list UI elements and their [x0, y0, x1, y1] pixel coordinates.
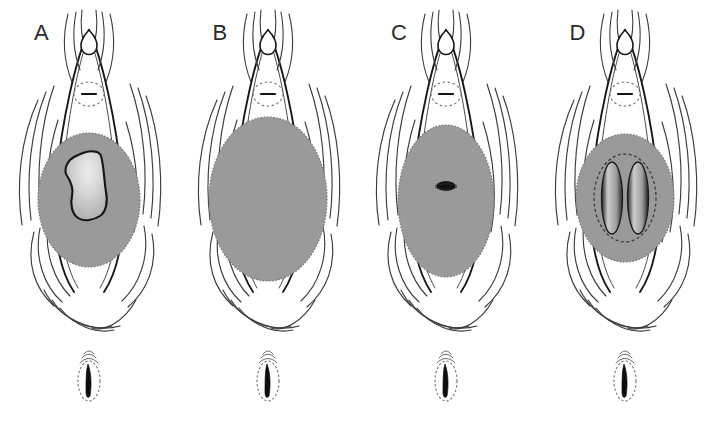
- urethral-meatus: [431, 82, 461, 106]
- inset-c: [435, 351, 457, 401]
- panel-c-label: C: [391, 22, 407, 44]
- panel-a-label: A: [34, 22, 49, 44]
- panel-d: D: [536, 0, 714, 424]
- panel-c: C: [357, 0, 536, 424]
- panel-a: A: [0, 0, 179, 424]
- apex-glans: [259, 30, 275, 55]
- panel-b: B: [179, 0, 358, 424]
- membrane-ellipse: [576, 134, 674, 262]
- apex-glans: [616, 30, 632, 55]
- central-opening-irregular: [65, 151, 106, 220]
- urethral-meatus: [74, 82, 104, 106]
- membrane-ellipse-large: [209, 117, 327, 281]
- lobe-left: [601, 162, 622, 234]
- panel-a-drawing: [0, 0, 179, 424]
- membrane-ellipse: [398, 125, 494, 277]
- urethral-meatus: [610, 82, 640, 106]
- panel-row: A: [0, 0, 714, 424]
- panel-b-drawing: [179, 0, 358, 424]
- panel-c-drawing: [357, 0, 536, 424]
- figure-root: A: [0, 0, 714, 424]
- lobe-right: [627, 162, 648, 234]
- inset-a: [78, 351, 100, 401]
- panel-d-drawing: [536, 0, 714, 424]
- urethral-meatus: [253, 82, 283, 106]
- inset-d: [614, 351, 636, 401]
- inset-b: [257, 351, 279, 401]
- apex-glans: [438, 30, 454, 55]
- apex-glans: [81, 30, 97, 55]
- panel-b-label: B: [213, 22, 228, 44]
- panel-d-label: D: [570, 22, 586, 44]
